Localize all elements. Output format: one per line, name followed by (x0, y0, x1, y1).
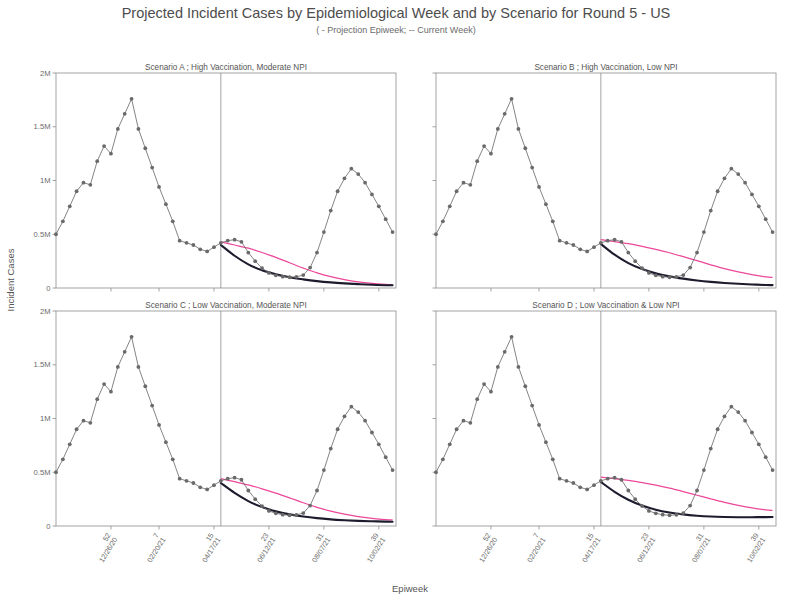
observed-point (185, 241, 189, 245)
observed-point (54, 470, 58, 474)
panel-title-C: Scenario C ; Low Vaccination, Moderate N… (145, 301, 306, 310)
observed-point (647, 271, 651, 275)
observed-point (260, 504, 264, 508)
observed-point (551, 219, 555, 223)
observed-point (384, 217, 388, 221)
observed-point (688, 266, 692, 270)
observed-point (640, 266, 644, 270)
observed-point (523, 384, 527, 388)
observed-point (462, 181, 466, 185)
observed-point (164, 440, 168, 444)
observed-point (723, 414, 727, 418)
observed-point (219, 479, 223, 483)
observed-point (675, 513, 679, 517)
observed-point (695, 489, 699, 493)
y-tick-label: 1.5M (34, 122, 51, 131)
observed-point (226, 239, 230, 243)
observed-point (322, 468, 326, 472)
observed-point (301, 273, 305, 277)
y-tick-label: 2M (40, 69, 51, 78)
observed-point (599, 241, 603, 245)
observed-point (61, 219, 65, 223)
observed-point (109, 390, 113, 394)
observed-point (771, 230, 775, 234)
observed-point (295, 513, 299, 517)
observed-point (281, 275, 285, 279)
observed-point (95, 397, 99, 401)
panel-title-B: Scenario B ; High Vaccination, Low NPI (534, 63, 677, 72)
y-tick-label: 0.5M (34, 468, 51, 477)
observed-point (482, 144, 486, 148)
observed-point (709, 447, 713, 451)
observed-point (246, 489, 250, 493)
observed-point (281, 513, 285, 517)
observed-point (496, 365, 500, 369)
observed-point (517, 127, 521, 131)
observed-point (329, 447, 333, 451)
observed-point (537, 185, 541, 189)
observed-point (585, 488, 589, 492)
observed-point (205, 488, 209, 492)
observed-point (468, 183, 472, 187)
observed-point (688, 504, 692, 508)
panel-title-D: Scenario D ; Low Vaccination & Low NPI (532, 301, 679, 310)
observed-point (143, 384, 147, 388)
observed-point (349, 405, 353, 409)
observed-point (384, 455, 388, 459)
chart-figure: Projected Incident Cases by Epidemiologi… (0, 0, 792, 600)
observed-point (240, 478, 244, 482)
observed-point (253, 497, 257, 501)
observed-point (661, 275, 665, 279)
observed-point (475, 159, 479, 163)
observed-point (620, 240, 624, 244)
observed-point (198, 247, 202, 251)
observed-point (116, 365, 120, 369)
observed-point (523, 146, 527, 150)
observed-point (599, 479, 603, 483)
observed-point (468, 421, 472, 425)
observed-point (308, 504, 312, 508)
observed-point (109, 152, 113, 156)
observed-point (764, 455, 768, 459)
observed-point (757, 442, 761, 446)
observed-point (675, 275, 679, 279)
observed-point (356, 410, 360, 414)
observed-point (571, 243, 575, 247)
observed-point (613, 476, 617, 480)
observed-point (434, 232, 438, 236)
observed-point (219, 241, 223, 245)
y-tick-label: 1M (40, 176, 51, 185)
observed-point (102, 144, 106, 148)
observed-point (54, 232, 58, 236)
observed-point (606, 239, 610, 243)
observed-point (370, 431, 374, 435)
observed-point (198, 485, 202, 489)
observed-point (288, 275, 292, 279)
observed-point (343, 176, 347, 180)
observed-point (295, 275, 299, 279)
observed-point (578, 247, 582, 251)
observed-point (68, 204, 72, 208)
observed-point (475, 397, 479, 401)
observed-point (233, 238, 237, 242)
observed-point (267, 509, 271, 513)
observed-point (274, 511, 278, 515)
observed-point (613, 238, 617, 242)
observed-point (441, 219, 445, 223)
observed-point (322, 230, 326, 234)
observed-point (308, 266, 312, 270)
observed-point (503, 112, 507, 116)
observed-point (544, 202, 548, 206)
observed-point (503, 350, 507, 354)
observed-point (565, 479, 569, 483)
observed-point (517, 365, 521, 369)
y-tick-label: 0 (46, 522, 50, 531)
observed-point (233, 476, 237, 480)
chart-subtitle: ( - Projection Epiweek; -- Current Week) (316, 25, 475, 35)
observed-point (592, 245, 596, 249)
observed-point (633, 497, 637, 501)
observed-point (771, 468, 775, 472)
y-tick-label: 0.5M (34, 230, 51, 239)
observed-point (61, 457, 65, 461)
observed-point (544, 440, 548, 444)
